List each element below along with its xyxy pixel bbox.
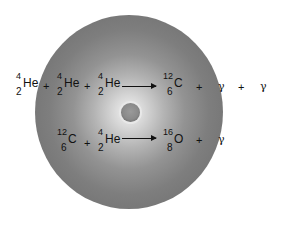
atomic-number: 2 <box>16 87 22 97</box>
plus-sign: + <box>238 82 244 93</box>
plus-sign: + <box>196 82 202 93</box>
gamma-photon: γ <box>260 81 267 92</box>
element-symbol: He <box>23 77 38 89</box>
mass-number: 12 <box>163 72 173 81</box>
reaction-arrow-icon <box>122 86 156 87</box>
plus-sign: + <box>43 81 49 92</box>
plus-sign: + <box>84 138 90 149</box>
atomic-number: 6 <box>167 87 173 97</box>
mass-number: 12 <box>57 128 67 137</box>
mass-number: 16 <box>163 128 173 137</box>
mass-number: 4 <box>98 128 103 137</box>
element-symbol: He <box>64 77 79 89</box>
plus-sign: + <box>84 81 90 92</box>
star-core <box>121 103 140 122</box>
reaction-arrow-icon <box>122 138 156 139</box>
mass-number: 4 <box>57 72 62 81</box>
atomic-number: 8 <box>167 143 173 153</box>
element-symbol: C <box>68 133 77 145</box>
atomic-number: 6 <box>61 143 67 153</box>
atomic-number: 2 <box>98 87 104 97</box>
mass-number: 4 <box>16 72 21 81</box>
plus-sign: + <box>196 135 202 146</box>
atomic-number: 2 <box>98 143 104 153</box>
gamma-photon: γ <box>218 134 225 145</box>
element-symbol: O <box>174 133 183 145</box>
element-symbol: He <box>105 133 120 145</box>
gamma-photon: γ <box>218 81 225 92</box>
mass-number: 4 <box>98 72 103 81</box>
atomic-number: 2 <box>57 87 63 97</box>
element-symbol: He <box>105 77 120 89</box>
element-symbol: C <box>174 77 183 89</box>
